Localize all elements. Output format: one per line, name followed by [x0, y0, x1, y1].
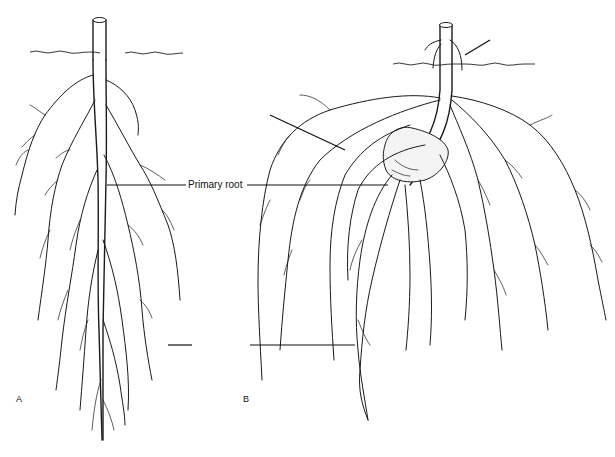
- root-drawing: [0, 0, 615, 457]
- panel-label-b: B: [243, 395, 249, 404]
- primary-root-label: Primary root: [188, 180, 242, 190]
- panel-b-fibrous: [250, 23, 606, 421]
- root-systems-diagram: Primary root A B: [0, 0, 615, 457]
- panel-a-taproot: [15, 18, 192, 441]
- panel-label-a: A: [16, 395, 22, 404]
